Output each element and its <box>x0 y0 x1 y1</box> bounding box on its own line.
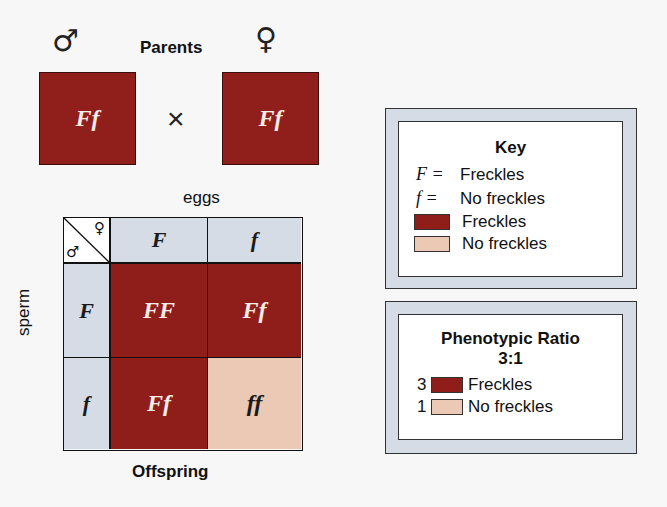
ratio-item-freckles: 3 Freckles <box>417 375 532 395</box>
key-inner: Key F = Freckles f = No freckles Freckle… <box>398 121 623 277</box>
parents-title: Parents <box>140 38 202 58</box>
ratio-panel: Phenotypic Ratio 3:1 3 Freckles 1 No fre… <box>385 301 637 454</box>
offspring-cell-Ff-1: Ff <box>208 264 301 358</box>
corner-cell: ♀ ♂ <box>64 218 111 264</box>
ratio-value: 3:1 <box>399 349 622 369</box>
offspring-cell-ff: ff <box>208 358 301 449</box>
parent-female-box: Ff <box>222 72 319 165</box>
cross-symbol: × <box>167 102 185 136</box>
male-symbol-icon: ♂ <box>52 26 79 56</box>
offspring-cell-Ff-2: Ff <box>111 358 208 449</box>
row-header-F: F <box>64 264 111 358</box>
parent-female-genotype: Ff <box>259 105 283 132</box>
column-header-f: f <box>208 218 301 264</box>
freckles-swatch <box>414 214 450 230</box>
eggs-label: eggs <box>183 188 220 208</box>
key-item-F: F = Freckles <box>416 164 524 185</box>
key-swatch-no-freckles: No freckles <box>414 234 547 254</box>
ratio-inner: Phenotypic Ratio 3:1 3 Freckles 1 No fre… <box>398 314 623 440</box>
sperm-label: sperm <box>14 289 34 336</box>
parent-male-box: Ff <box>39 72 136 165</box>
parent-male-genotype: Ff <box>76 105 100 132</box>
key-panel: Key F = Freckles f = No freckles Freckle… <box>385 108 637 289</box>
key-item-f: f = No freckles <box>416 188 545 209</box>
corner-female-icon: ♀ <box>94 219 105 237</box>
offspring-cell-FF: FF <box>111 264 208 358</box>
punnett-square: ♀ ♂ F f F f FF Ff Ff ff <box>63 217 303 451</box>
row-header-f: f <box>64 358 111 449</box>
ratio-no-freckles-swatch <box>431 399 463 415</box>
ratio-freckles-swatch <box>431 377 463 393</box>
ratio-item-no-freckles: 1 No freckles <box>417 397 553 417</box>
ratio-title: Phenotypic Ratio <box>399 329 622 349</box>
key-title: Key <box>399 138 622 158</box>
offspring-caption: Offspring <box>132 462 209 482</box>
female-symbol-icon: ♀ <box>255 24 277 54</box>
key-swatch-freckles: Freckles <box>414 212 526 232</box>
column-header-F: F <box>111 218 208 264</box>
corner-male-icon: ♂ <box>66 243 79 261</box>
no-freckles-swatch <box>414 236 450 252</box>
